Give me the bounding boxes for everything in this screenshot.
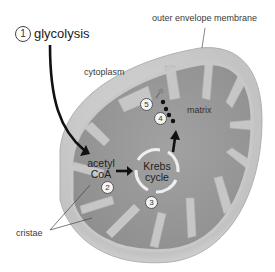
mitochondrion-diagram: 1 glycolysis outer envelope membrane cyt… bbox=[0, 0, 275, 272]
outer-membrane-leader bbox=[202, 28, 205, 48]
cristae-label: cristae bbox=[16, 229, 43, 238]
acetyl-coa-label: acetyl CoA bbox=[84, 158, 118, 180]
krebs-cycle-label: Krebs cycle bbox=[138, 161, 176, 183]
matrix-label: matrix bbox=[187, 106, 212, 115]
step-2-badge: 2 bbox=[101, 181, 114, 194]
acetyl-coa-line2: CoA bbox=[84, 169, 118, 180]
step-3-badge: 3 bbox=[145, 196, 158, 209]
step-4-badge: 4 bbox=[154, 112, 167, 125]
outer-envelope-membrane-label: outer envelope membrane bbox=[152, 14, 257, 23]
cytoplasm-label: cytoplasm bbox=[84, 68, 125, 77]
step-1-badge: 1 bbox=[15, 26, 31, 42]
krebs-line2: cycle bbox=[138, 172, 176, 183]
glycolysis-label: glycolysis bbox=[34, 27, 90, 40]
step-5-badge: 5 bbox=[140, 98, 153, 111]
